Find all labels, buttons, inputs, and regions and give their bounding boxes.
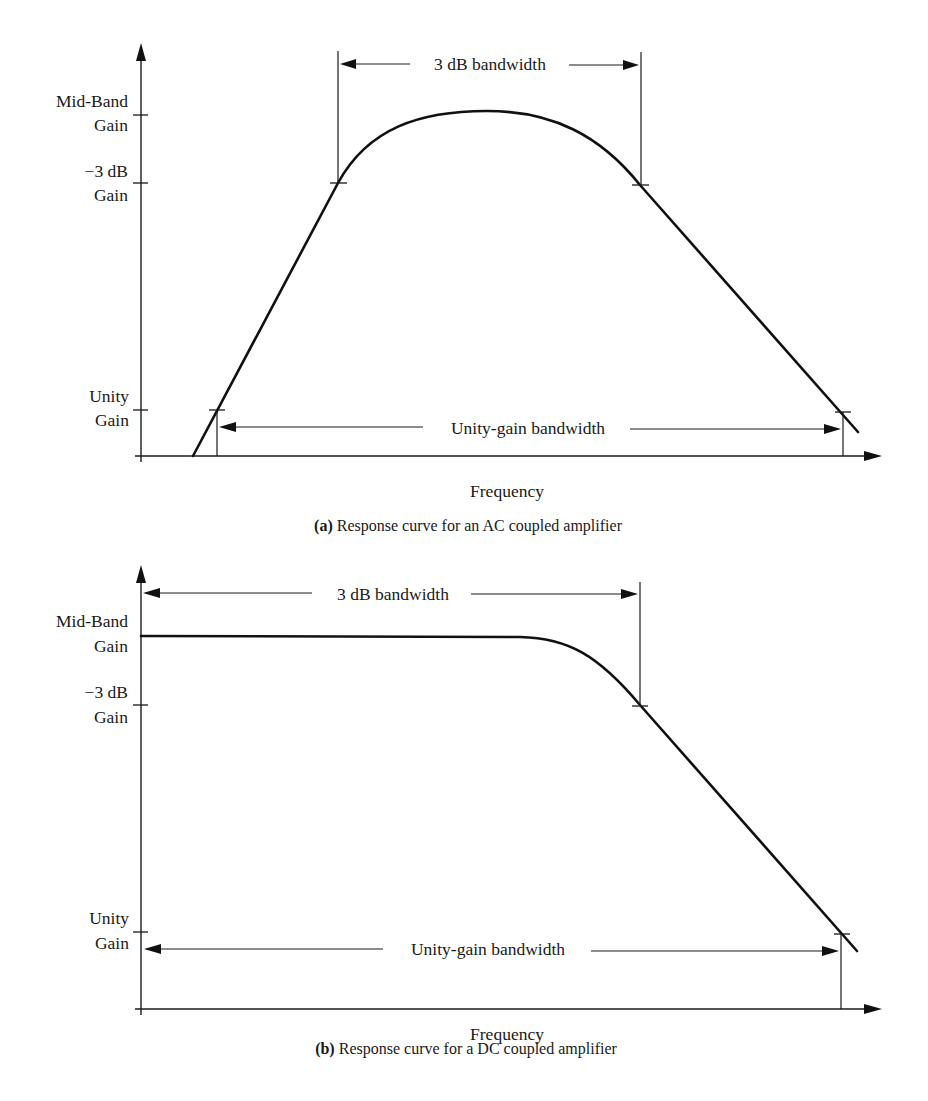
y-axis-arrow-icon — [136, 565, 146, 583]
bw3db-label: 3 dB bandwidth — [434, 54, 546, 74]
bw3db-arrow-right-icon — [621, 589, 638, 599]
ugbw-label: Unity-gain bandwidth — [411, 939, 565, 959]
x-axis-label: Frequency — [470, 481, 544, 501]
label-minus3db-line2: Gain — [94, 185, 128, 205]
label-mid-band-line2: Gain — [94, 115, 128, 135]
figure-caption-b: (b) Response curve for a DC coupled ampl… — [315, 1040, 617, 1058]
figure-caption-a: (a) Response curve for an AC coupled amp… — [314, 517, 623, 535]
x-axis-arrow-icon — [864, 451, 882, 461]
label-unity-line2: Gain — [95, 933, 129, 953]
caption-text: Response curve for an AC coupled amplifi… — [333, 517, 623, 535]
label-unity-line1: Unity — [89, 908, 129, 928]
response-curve-dc — [141, 636, 857, 951]
ugbw-label: Unity-gain bandwidth — [451, 418, 605, 438]
label-unity-line1: Unity — [89, 386, 129, 406]
amplifier-response-figure: Mid-Band Gain −3 dB Gain Unity Gain 3 dB… — [0, 0, 928, 1101]
label-minus3db-line1: −3 dB — [85, 161, 128, 181]
bw3db-arrow-left-icon — [340, 59, 356, 69]
caption-tag: (b) — [315, 1040, 335, 1058]
label-mid-band-line1: Mid-Band — [56, 611, 128, 631]
x-axis-arrow-icon — [864, 1004, 882, 1014]
figure-b-dc-coupled: Mid-Band Gain −3 dB Gain Unity Gain 3 dB… — [56, 565, 882, 1058]
label-mid-band-line2: Gain — [94, 636, 128, 656]
caption-tag: (a) — [314, 517, 333, 535]
label-mid-band-line1: Mid-Band — [56, 91, 128, 111]
label-unity-line2: Gain — [95, 410, 129, 430]
ugbw-arrow-left-icon — [144, 944, 161, 954]
caption-text: Response curve for a DC coupled amplifie… — [335, 1040, 618, 1058]
y-axis-arrow-icon — [136, 43, 146, 61]
ugbw-arrow-left-icon — [219, 422, 236, 432]
label-minus3db-line2: Gain — [94, 707, 128, 727]
ugbw-arrow-right-icon — [824, 424, 841, 434]
figure-a-ac-coupled: Mid-Band Gain −3 dB Gain Unity Gain 3 dB… — [56, 43, 882, 535]
bw3db-arrow-left-icon — [143, 588, 160, 598]
ugbw-arrow-right-icon — [822, 946, 839, 956]
label-minus3db-line1: −3 dB — [85, 682, 128, 702]
response-curve-ac — [193, 111, 858, 456]
bw3db-label: 3 dB bandwidth — [337, 584, 449, 604]
bw3db-arrow-right-icon — [623, 60, 639, 70]
